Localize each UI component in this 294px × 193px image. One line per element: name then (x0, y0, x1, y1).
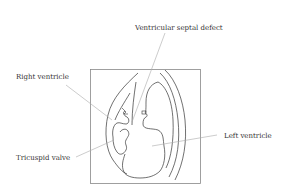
leader-tv (76, 140, 114, 157)
label-tricuspid-valve: Tricuspid valve (16, 155, 70, 162)
label-ventricular-septal-defect: Ventricular septal defect (135, 25, 223, 32)
leader-lv (152, 135, 217, 146)
diagram-frame (91, 70, 201, 184)
valve-leaflet (122, 108, 128, 114)
left-ventricle-wall (122, 82, 164, 178)
leader-vsd (132, 33, 165, 122)
outer-wall-inner (160, 73, 179, 177)
right-ventricle-wall (115, 93, 130, 120)
label-left-ventricle: Left ventricle (224, 133, 272, 140)
label-right-ventricle: Right ventricle (16, 74, 69, 81)
left-ventricle-lumen (158, 82, 173, 168)
tricuspid-valve-shape (113, 111, 129, 154)
leader-rv (66, 85, 112, 120)
septum (132, 82, 136, 125)
